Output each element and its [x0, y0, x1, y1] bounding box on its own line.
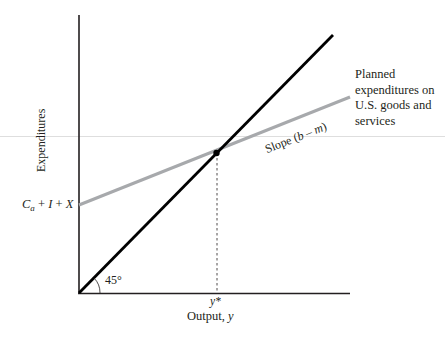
equilibrium-output-label: y* [210, 294, 221, 309]
x-axis-variable: y [228, 309, 234, 323]
planned-expenditures-label: Planned expenditures on U.S. goods and s… [355, 67, 445, 129]
intercept-label: Ca + I + X [22, 197, 73, 216]
intercept-plus-1: + [35, 197, 48, 211]
x-axis-label-text: Output, [187, 309, 225, 323]
forty-five-degree-line [79, 35, 333, 293]
y-axis-label: Expenditures [34, 109, 49, 172]
intercept-plus-2: + [52, 197, 65, 211]
diagram-canvas [0, 0, 445, 342]
angle-label: 45° [105, 273, 122, 288]
intercept-x: X [66, 197, 74, 211]
x-axis-label: Output, y [187, 309, 234, 324]
equilibrium-point [213, 150, 219, 156]
angle-arc [94, 278, 100, 293]
